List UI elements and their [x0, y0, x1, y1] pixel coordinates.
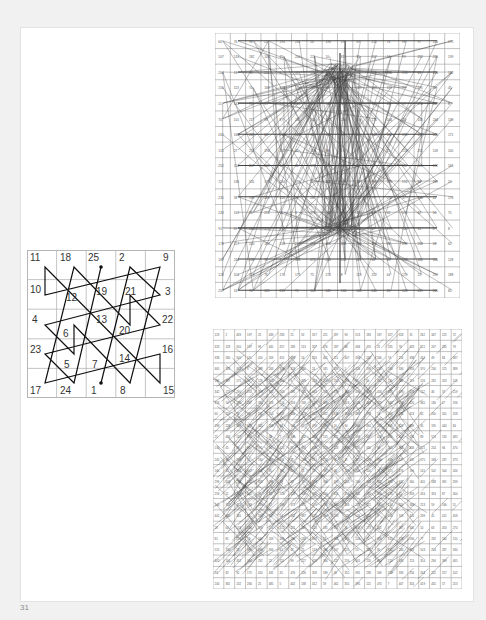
svg-text:246: 246 [247, 526, 252, 530]
svg-text:216: 216 [280, 401, 285, 405]
svg-text:79: 79 [453, 345, 457, 349]
svg-text:198: 198 [399, 401, 404, 405]
svg-text:109: 109 [236, 424, 241, 428]
svg-text:25: 25 [215, 435, 219, 439]
svg-text:184: 184 [249, 227, 255, 231]
svg-text:23: 23 [356, 180, 360, 184]
svg-text:89: 89 [310, 227, 314, 231]
svg-text:35: 35 [280, 55, 284, 59]
svg-text:56: 56 [310, 102, 314, 106]
svg-text:172: 172 [377, 480, 382, 484]
svg-text:516: 516 [269, 526, 274, 530]
svg-text:242: 242 [366, 356, 371, 360]
svg-text:220: 220 [433, 55, 439, 59]
svg-text:63: 63 [264, 133, 268, 137]
svg-text:126: 126 [366, 559, 371, 563]
svg-text:521: 521 [290, 526, 295, 530]
svg-text:72: 72 [366, 537, 370, 541]
cell-number: 16 [162, 345, 173, 355]
svg-text:226: 226 [402, 227, 408, 231]
svg-text:188: 188 [334, 480, 339, 484]
svg-text:299: 299 [215, 480, 220, 484]
svg-text:424: 424 [399, 424, 404, 428]
svg-text:111: 111 [345, 548, 350, 552]
svg-text:141: 141 [420, 469, 425, 473]
svg-text:62: 62 [341, 196, 345, 200]
svg-text:45: 45 [448, 86, 452, 90]
svg-text:233: 233 [236, 537, 241, 541]
svg-text:207: 207 [310, 86, 316, 90]
svg-text:83: 83 [341, 55, 345, 59]
svg-text:525: 525 [388, 469, 393, 473]
svg-text:507: 507 [247, 469, 252, 473]
svg-text:403: 403 [399, 435, 404, 439]
svg-text:320: 320 [377, 492, 382, 496]
svg-text:373: 373 [290, 503, 295, 507]
svg-text:149: 149 [312, 480, 317, 484]
svg-text:344: 344 [334, 503, 339, 507]
svg-text:128: 128 [402, 289, 408, 293]
svg-text:238: 238 [249, 258, 255, 262]
svg-text:498: 498 [258, 367, 263, 371]
svg-text:127: 127 [236, 435, 241, 439]
svg-text:267: 267 [341, 227, 347, 231]
svg-text:348: 348 [388, 401, 393, 405]
svg-text:105: 105 [326, 242, 332, 246]
svg-text:205: 205 [326, 180, 332, 184]
svg-text:45: 45 [402, 118, 406, 122]
svg-text:474: 474 [377, 582, 382, 586]
svg-text:458: 458 [377, 390, 382, 394]
svg-text:174: 174 [236, 526, 241, 530]
svg-text:456: 456 [345, 492, 350, 496]
svg-text:247: 247 [269, 514, 274, 518]
svg-text:416: 416 [420, 492, 425, 496]
svg-text:71: 71 [290, 458, 294, 462]
svg-text:267: 267 [433, 102, 439, 106]
svg-text:476: 476 [290, 571, 295, 575]
svg-text:139: 139 [345, 379, 350, 383]
svg-text:106: 106 [417, 118, 423, 122]
svg-text:453: 453 [442, 526, 447, 530]
svg-text:78: 78 [236, 412, 240, 416]
svg-text:209: 209 [323, 379, 328, 383]
svg-text:148: 148 [334, 412, 339, 416]
svg-text:43: 43 [417, 71, 421, 75]
svg-text:227: 227 [301, 559, 306, 563]
svg-text:387: 387 [301, 514, 306, 518]
svg-text:274: 274 [453, 526, 458, 530]
svg-text:80: 80 [269, 446, 273, 450]
svg-text:59: 59 [356, 40, 360, 44]
svg-text:49: 49 [295, 149, 299, 153]
svg-text:37: 37 [234, 227, 238, 231]
svg-text:84: 84 [345, 345, 349, 349]
svg-text:397: 397 [225, 379, 230, 383]
svg-text:484: 484 [258, 401, 263, 405]
svg-text:190: 190 [355, 480, 360, 484]
svg-text:268: 268 [388, 367, 393, 371]
svg-text:114: 114 [234, 164, 239, 168]
svg-text:209: 209 [269, 537, 274, 541]
svg-text:155: 155 [323, 458, 328, 462]
svg-text:74: 74 [387, 40, 391, 44]
svg-text:333: 333 [399, 571, 404, 575]
svg-text:323: 323 [215, 345, 220, 349]
svg-text:296: 296 [409, 537, 414, 541]
svg-text:332: 332 [258, 514, 263, 518]
svg-text:192: 192 [326, 118, 332, 122]
svg-text:516: 516 [388, 514, 393, 518]
svg-text:15: 15 [399, 492, 403, 496]
svg-text:37: 37 [442, 390, 446, 394]
svg-text:336: 336 [399, 367, 404, 371]
svg-text:444: 444 [442, 424, 447, 428]
svg-text:197: 197 [356, 227, 362, 231]
svg-text:175: 175 [247, 571, 252, 575]
svg-text:190: 190 [258, 458, 263, 462]
svg-text:291: 291 [334, 379, 339, 383]
svg-text:166: 166 [290, 412, 295, 416]
svg-text:315: 315 [280, 526, 285, 530]
svg-text:342: 342 [215, 390, 220, 394]
svg-text:221: 221 [323, 333, 328, 337]
svg-text:62: 62 [420, 412, 424, 416]
svg-text:68: 68 [371, 258, 375, 262]
svg-text:336: 336 [409, 446, 414, 450]
